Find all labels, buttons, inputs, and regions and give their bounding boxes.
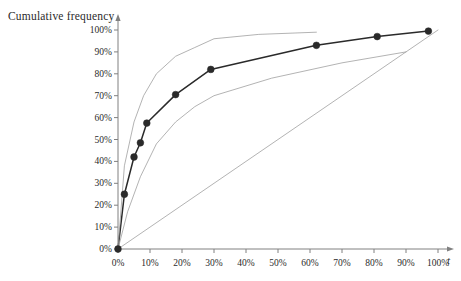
- y-tick-label: 60%: [72, 113, 112, 123]
- y-tick-label: 0%: [72, 244, 112, 254]
- x-tick-label: 80%: [365, 258, 382, 268]
- series-layer: [118, 30, 438, 249]
- y-tick-label: 10%: [72, 222, 112, 232]
- x-tick-label: 90%: [397, 258, 414, 268]
- x-tick-label: 30%: [205, 258, 222, 268]
- data-point-marker: [425, 28, 432, 35]
- series-line: [118, 32, 316, 249]
- chart-container: Cumulative frequency t 0%10%20%30%40%50%…: [0, 0, 461, 281]
- y-tick-label: 80%: [72, 69, 112, 79]
- data-point-marker: [172, 91, 179, 98]
- x-tick-label: 0%: [112, 258, 125, 268]
- data-point-marker: [121, 191, 128, 198]
- data-point-marker: [313, 42, 320, 49]
- y-axis-title: Cumulative frequency: [8, 10, 115, 22]
- x-tick-label: 10%: [141, 258, 158, 268]
- data-point-marker: [207, 66, 214, 73]
- series-line-main: [118, 31, 428, 249]
- x-axis-arrow-icon: [447, 246, 454, 251]
- x-tick-label: 40%: [237, 258, 254, 268]
- data-point-marker: [131, 154, 138, 161]
- y-tick-label: 50%: [72, 135, 112, 145]
- cumulative-frequency-plot: [0, 0, 461, 281]
- y-tick-label: 70%: [72, 91, 112, 101]
- data-point-marker: [137, 139, 144, 146]
- x-tick-label: 60%: [301, 258, 318, 268]
- x-tick-label: 100%: [427, 258, 449, 268]
- y-tick-label: 90%: [72, 47, 112, 57]
- y-axis-arrow-icon: [115, 14, 120, 21]
- data-point-marker: [115, 246, 122, 253]
- series-line: [118, 30, 438, 249]
- x-tick-label: 20%: [173, 258, 190, 268]
- data-point-marker: [143, 120, 150, 127]
- y-tick-label: 20%: [72, 200, 112, 210]
- x-tick-label: 50%: [269, 258, 286, 268]
- x-tick-label: 70%: [333, 258, 350, 268]
- y-tick-label: 30%: [72, 178, 112, 188]
- y-tick-label: 100%: [72, 25, 112, 35]
- data-point-marker: [374, 33, 381, 40]
- y-tick-label: 40%: [72, 156, 112, 166]
